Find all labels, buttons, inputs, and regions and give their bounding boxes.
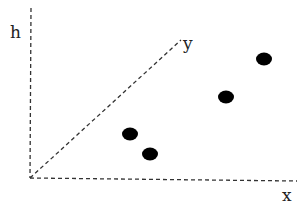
h-axis-label: h bbox=[10, 22, 21, 42]
y-axis-label: y bbox=[182, 33, 193, 53]
data-point bbox=[142, 148, 158, 161]
h-axis bbox=[30, 8, 31, 178]
x-axis bbox=[30, 178, 297, 181]
x-axis-label: x bbox=[282, 185, 292, 205]
data-point bbox=[256, 53, 272, 66]
3d-axes-diagram: h y x bbox=[0, 0, 307, 213]
data-point bbox=[122, 128, 138, 141]
data-point bbox=[218, 91, 234, 104]
y-axis bbox=[30, 40, 181, 178]
